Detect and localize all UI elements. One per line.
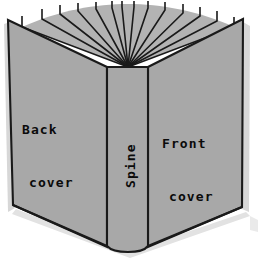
book-diagram: Back cover Front cover Spine: [0, 0, 261, 269]
back-cover-label-line2: cover: [22, 174, 74, 192]
front-cover-label-line2: cover: [162, 188, 214, 206]
front-cover-label-line1: Front: [162, 135, 214, 153]
front-cover-label: Front cover: [162, 100, 214, 240]
corner-shadow-right: [250, 216, 258, 232]
back-cover-label: Back cover: [22, 86, 74, 226]
spine-label: Spine: [122, 108, 140, 188]
back-cover-label-line1: Back: [22, 121, 74, 139]
